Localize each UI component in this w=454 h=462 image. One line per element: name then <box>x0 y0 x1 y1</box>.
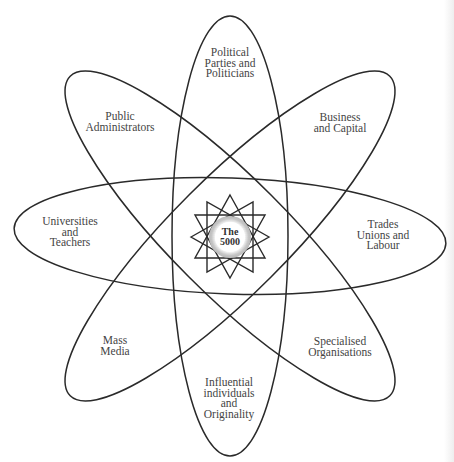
petal-label-mass-media: Mass Media <box>100 335 129 356</box>
label-line: Political <box>205 47 256 58</box>
label-line: Universities <box>42 216 98 227</box>
label-line: Public <box>86 111 155 122</box>
label-line: Business <box>314 112 367 123</box>
label-line: and Capital <box>314 122 367 133</box>
core-label-line: 5000 <box>220 237 240 247</box>
label-line: Politicians <box>205 68 256 79</box>
label-line: Trades <box>357 219 410 230</box>
petal-label-universities: Universities and Teachers <box>42 216 98 248</box>
label-line: Administrators <box>86 121 155 132</box>
petal-label-political: Political Parties and Politicians <box>205 47 256 79</box>
petal-label-public-admin: Public Administrators <box>86 111 155 132</box>
petal-label-influential: Influential individuals and Originality <box>203 377 254 419</box>
label-line: Labour <box>357 240 410 251</box>
label-line: Organisations <box>308 346 372 357</box>
petal-label-trades: Trades Unions and Labour <box>357 219 410 251</box>
core-label: The 5000 <box>220 227 240 247</box>
label-line: and <box>203 398 254 409</box>
label-line: Mass <box>100 335 129 346</box>
petal-label-specialised: Specialised Organisations <box>308 336 372 357</box>
label-line: Teachers <box>42 237 98 248</box>
label-line: Influential <box>203 377 254 388</box>
petal-label-business: Business and Capital <box>314 112 367 133</box>
label-line: Media <box>100 345 129 356</box>
label-line: Originality <box>203 409 254 420</box>
label-line: Specialised <box>308 336 372 347</box>
